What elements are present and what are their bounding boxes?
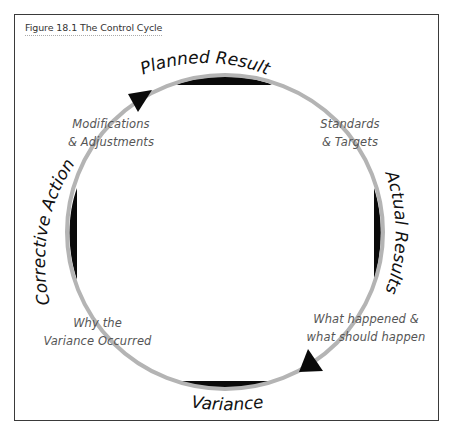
stage-label-variance: Variance [190,391,265,414]
note-line: & Targets [300,133,400,151]
stage-label-actual-results: Actual Results [381,167,412,297]
note-line: what should happen [296,328,436,346]
note-modifications-adjustments: Modifications & Adjustments [56,115,166,151]
control-cycle-diagram: Planned Result Actual Results Variance C… [0,0,454,433]
note-line: Why the [35,314,160,332]
note-why-variance: Why the Variance Occurred [35,314,160,350]
note-line: Variance Occurred [35,332,160,350]
arrowhead-bottom-right-icon [299,349,323,372]
note-line: Modifications [56,115,166,133]
note-line: & Adjustments [56,133,166,151]
arrowhead-top-left-icon [128,90,152,112]
note-line: Standards [300,115,400,133]
stage-label-planned-result: Planned Result [137,47,274,79]
note-what-happened: What happened & what should happen [296,310,436,346]
note-standards-targets: Standards & Targets [300,115,400,151]
note-line: What happened & [296,310,436,328]
